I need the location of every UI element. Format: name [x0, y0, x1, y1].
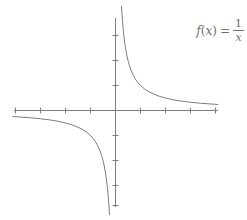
- function-plot-figure: f(x)= 1 x: [0, 0, 247, 220]
- label-fraction: 1 x: [233, 18, 244, 43]
- label-equals-sign: =: [220, 25, 230, 37]
- label-numerator: 1: [233, 18, 244, 30]
- function-label: f(x)= 1 x: [178, 16, 244, 46]
- label-denominator: x: [233, 31, 243, 43]
- label-close-paren: ): [212, 25, 217, 37]
- label-variable: x: [205, 25, 212, 37]
